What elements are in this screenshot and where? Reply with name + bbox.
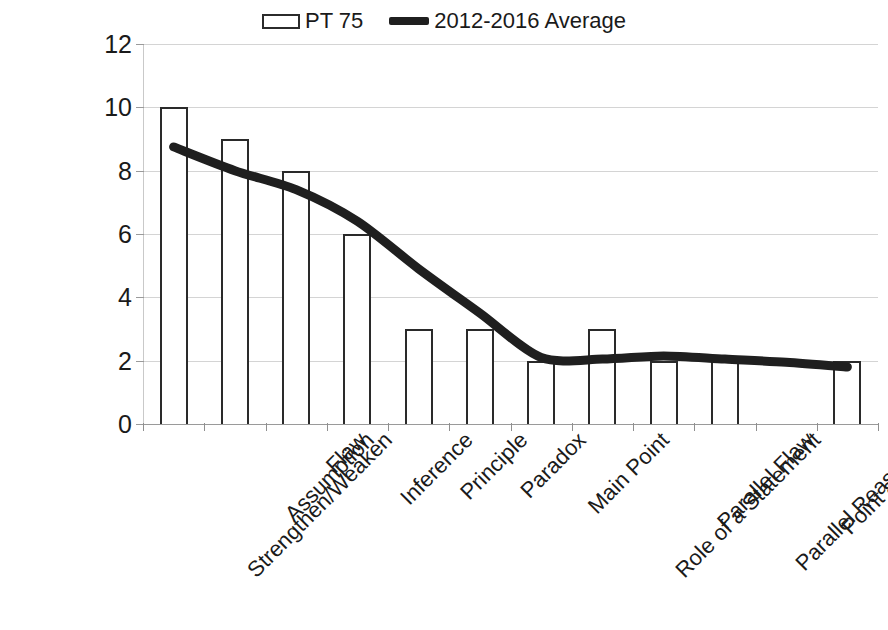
gridlines-layer	[143, 44, 878, 424]
gridline	[143, 234, 878, 235]
y-axis-tick-labels: 024681012	[88, 44, 132, 424]
legend-entry-pt-75: PT 75	[262, 10, 363, 32]
y-axis-tick-label: 0	[118, 412, 132, 437]
y-axis-tick-label: 2	[118, 348, 132, 373]
gridline	[143, 171, 878, 172]
plot-area: 024681012	[0, 44, 888, 444]
y-axis-tick-label: 6	[118, 222, 132, 247]
legend-label-average: 2012-2016 Average	[434, 10, 626, 32]
x-axis-category-label: Point at Issue	[837, 428, 888, 539]
y-axis-tick-label: 10	[104, 95, 132, 120]
gridline	[143, 107, 878, 108]
y-axis-tickmark	[136, 297, 144, 298]
y-axis-tick-label: 8	[118, 158, 132, 183]
gridline	[143, 44, 878, 45]
y-axis-tickmark	[136, 44, 144, 45]
x-axis-category-label: Strengthen/Weaken	[242, 428, 396, 582]
legend-line-swatch-icon	[389, 17, 429, 25]
x-axis-category-labels: Strengthen/WeakenAssumptionFlawInference…	[143, 428, 878, 628]
y-axis-tickmark	[136, 361, 144, 362]
legend-label-pt-75: PT 75	[305, 10, 363, 32]
gridline	[143, 297, 878, 298]
chart-legend: PT 75 2012-2016 Average	[0, 4, 888, 38]
y-axis-tick-label: 4	[118, 285, 132, 310]
legend-entry-average: 2012-2016 Average	[389, 10, 626, 32]
x-axis-tickmark	[878, 423, 879, 431]
y-axis-tickmark	[136, 234, 144, 235]
gridline	[143, 361, 878, 362]
legend-bar-swatch-icon	[262, 14, 300, 29]
y-axis-tick-label: 12	[104, 32, 132, 57]
x-axis-category-label: Main Point	[584, 428, 674, 518]
y-axis-tickmark	[136, 171, 144, 172]
bar-line-chart: PT 75 2012-2016 Average 024681012 Streng…	[0, 0, 888, 630]
y-axis-tickmark	[136, 107, 144, 108]
x-axis-category-label: Parallel Flaw	[713, 428, 819, 534]
